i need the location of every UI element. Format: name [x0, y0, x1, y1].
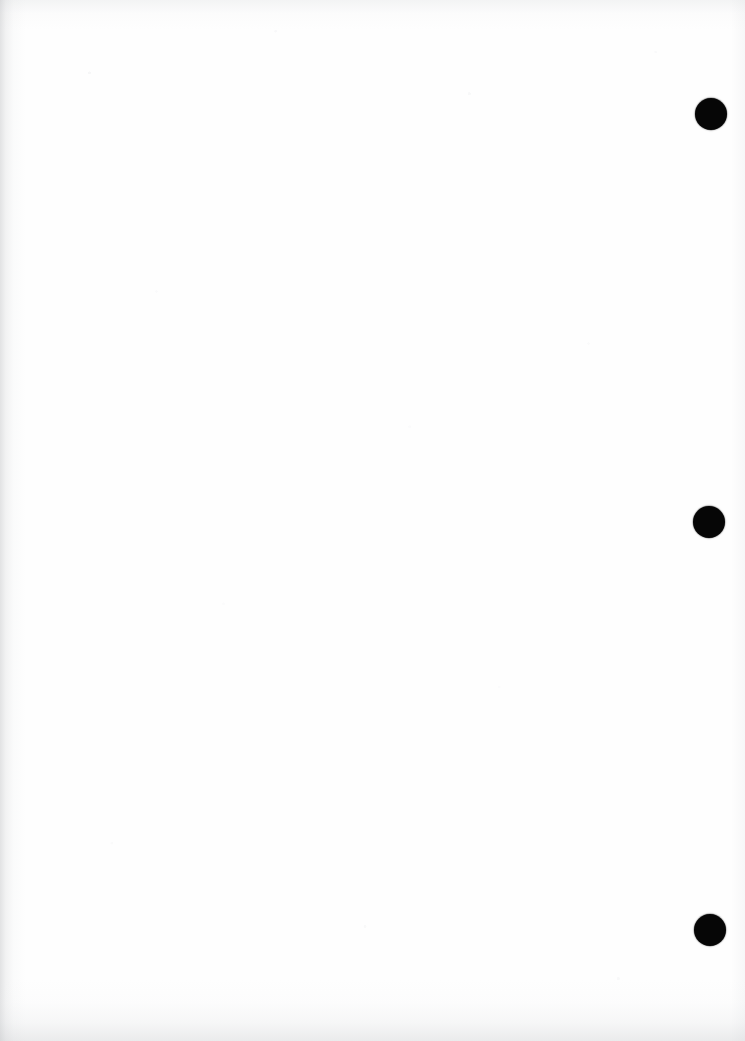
ink-dot-3	[694, 914, 726, 946]
ink-dot-1	[695, 98, 727, 130]
scanned-page	[0, 0, 745, 1041]
paper-background	[0, 0, 745, 1041]
ink-dot-2	[693, 506, 725, 538]
